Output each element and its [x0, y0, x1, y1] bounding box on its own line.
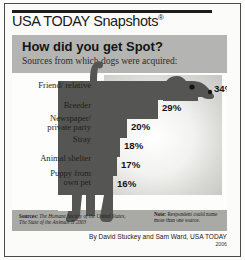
value-label: 16% [117, 178, 136, 189]
registered-mark-icon: ® [158, 13, 164, 22]
value-label: 20% [131, 121, 150, 132]
source-body: The Humane Society of the United States, [39, 213, 125, 219]
chart-panel: How did you get Spot? Sources from which… [12, 35, 227, 231]
brand-name: USA TODAY Snapshots [12, 13, 158, 29]
chart-subtitle: Sources from which dogs were acquired: [22, 56, 177, 66]
category-label: Newspaper/private party [12, 114, 94, 133]
source-body-2: The State of the Animals II 2003 [19, 219, 86, 225]
category-label: Animal shelter [12, 154, 94, 163]
category-label: Friend/ relative [12, 81, 94, 90]
source-label: Sources: [19, 213, 38, 219]
note-label: Note: [154, 211, 166, 217]
source-note-block: Sources: The Humane Society of the Unite… [16, 213, 223, 231]
value-label: 34% [214, 83, 227, 94]
snapshot-infographic: USA TODAY Snapshots® How did you get Spo… [0, 0, 245, 260]
value-label: 17% [121, 159, 140, 170]
source-text: Sources: The Humane Society of the Unite… [19, 213, 144, 225]
brand-title: USA TODAY Snapshots® [12, 13, 227, 33]
category-label: Breeder [12, 101, 94, 110]
background-glow [104, 75, 222, 195]
value-label: 18% [124, 140, 143, 151]
chart-title: How did you get Spot? [22, 39, 163, 54]
note-text: Note: Respondent could name more than on… [154, 211, 220, 223]
year-label: 2006 [12, 241, 227, 247]
value-label: 29% [162, 102, 181, 113]
category-label: Puppy fromown pet [12, 169, 94, 188]
byline: By David Stuckey and Sam Ward, USA TODAY [12, 233, 227, 240]
category-label: Stray [12, 135, 94, 144]
